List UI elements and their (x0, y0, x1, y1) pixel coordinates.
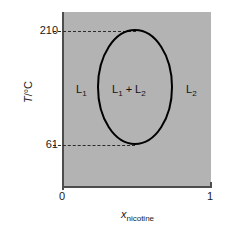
region-label-l1: L1 (76, 84, 87, 98)
y-axis-title: T/°C (22, 62, 34, 122)
region-label-l2: L2 (186, 84, 197, 98)
x-axis-title: xnicotine (64, 208, 211, 223)
y-axis-title-unit: /°C (22, 81, 34, 96)
region-label-l1-sub: 1 (82, 89, 86, 98)
x-axis-line (62, 186, 212, 188)
guide-line-upper-critical-temp (53, 31, 136, 32)
x-axis-tick-label-1: 1 (207, 191, 213, 202)
plot-area (64, 12, 211, 187)
y-axis-tick-label-210: 210 (40, 25, 58, 36)
x-axis-title-subscript: nicotine (126, 214, 154, 223)
y-axis-title-variable: T (22, 96, 34, 103)
x-axis-tick-1 (210, 182, 212, 188)
y-axis-tick-label-61: 61 (46, 139, 58, 150)
region-label-mix-plus: + L (123, 83, 142, 95)
y-axis-line (62, 12, 64, 190)
x-axis-tick-0 (62, 182, 64, 188)
region-label-l1-plus-l2: L1 + L2 (112, 84, 146, 98)
region-label-mix-second-sub: 2 (141, 89, 145, 98)
x-axis-tick-label-0: 0 (59, 191, 65, 202)
phase-diagram-figure: 210 61 0 1 T/°C xnicotine L1 L1 + L2 L2 (0, 0, 225, 228)
guide-line-lower-critical-temp (53, 145, 135, 146)
region-label-l2-sub: 2 (192, 89, 196, 98)
